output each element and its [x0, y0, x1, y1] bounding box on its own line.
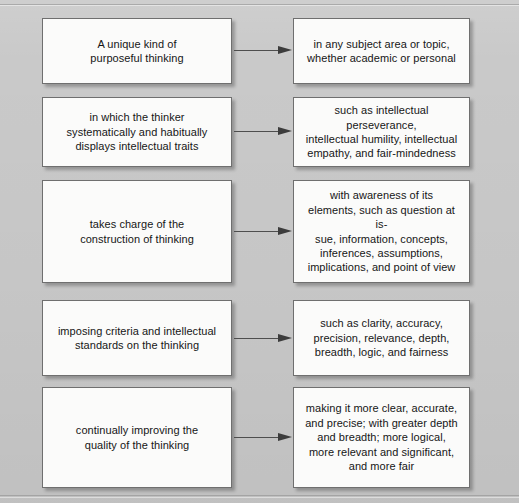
diagram-row-4: imposing criteria and intellectual stand…: [0, 300, 519, 376]
node-intellectual-standards[interactable]: such as clarity, accuracy, precision, re…: [293, 300, 470, 376]
diagram-row-1: A unique kind of purposeful thinking in …: [0, 18, 519, 84]
arrow-shaft: [234, 338, 280, 339]
diagram-row-5: continually improving the quality of the…: [0, 387, 519, 488]
leads-to-arrow-2: [234, 127, 292, 136]
page-rule-bottom-highlight: [0, 497, 519, 498]
node-improvement-outcomes[interactable]: making it more clear, accurate, and prec…: [293, 387, 470, 488]
node-unique-kind-label: A unique kind of purposeful thinking: [51, 37, 223, 66]
diagram-row-2: in which the thinker systematically and …: [0, 97, 519, 167]
node-intellectual-standards-label: such as clarity, accuracy, precision, re…: [302, 316, 461, 359]
node-elements-of-thought[interactable]: with awareness of its elements, such as …: [293, 180, 470, 283]
node-unique-kind[interactable]: A unique kind of purposeful thinking: [42, 18, 232, 84]
node-construction-of-thinking[interactable]: takes charge of the construction of thin…: [42, 180, 232, 283]
arrow-shaft: [234, 50, 280, 51]
arrow-shaft: [234, 131, 280, 132]
node-traits-examples-label: such as intellectual perseverance, intel…: [302, 103, 461, 161]
leads-to-arrow-3: [234, 227, 292, 236]
node-traits-examples[interactable]: such as intellectual perseverance, intel…: [293, 97, 470, 167]
arrow-head-icon: [278, 227, 292, 235]
arrow-head-icon: [278, 334, 292, 342]
diagram-row-3: takes charge of the construction of thin…: [0, 180, 519, 283]
arrow-head-icon: [278, 433, 292, 441]
page-rule-bottom: [0, 495, 519, 496]
node-imposing-criteria[interactable]: imposing criteria and intellectual stand…: [42, 300, 232, 376]
node-intellectual-traits-label: in which the thinker systematically and …: [51, 110, 223, 153]
diagram-canvas: A unique kind of purposeful thinking in …: [0, 0, 519, 503]
node-construction-of-thinking-label: takes charge of the construction of thin…: [51, 217, 223, 246]
node-elements-of-thought-label: with awareness of its elements, such as …: [302, 188, 461, 274]
leads-to-arrow-5: [234, 433, 292, 442]
node-continually-improving-label: continually improving the quality of the…: [51, 423, 223, 452]
node-subject-area-label: in any subject area or topic, whether ac…: [302, 37, 461, 66]
node-subject-area[interactable]: in any subject area or topic, whether ac…: [293, 18, 470, 84]
arrow-head-icon: [278, 46, 292, 54]
node-imposing-criteria-label: imposing criteria and intellectual stand…: [51, 324, 223, 353]
node-improvement-outcomes-label: making it more clear, accurate, and prec…: [302, 401, 461, 473]
node-continually-improving[interactable]: continually improving the quality of the…: [42, 387, 232, 488]
arrow-shaft: [234, 437, 280, 438]
arrow-head-icon: [278, 127, 292, 135]
arrow-shaft: [234, 231, 280, 232]
leads-to-arrow-1: [234, 46, 292, 55]
page-rule-top-highlight: [0, 5, 519, 6]
leads-to-arrow-4: [234, 334, 292, 343]
node-intellectual-traits[interactable]: in which the thinker systematically and …: [42, 97, 232, 167]
